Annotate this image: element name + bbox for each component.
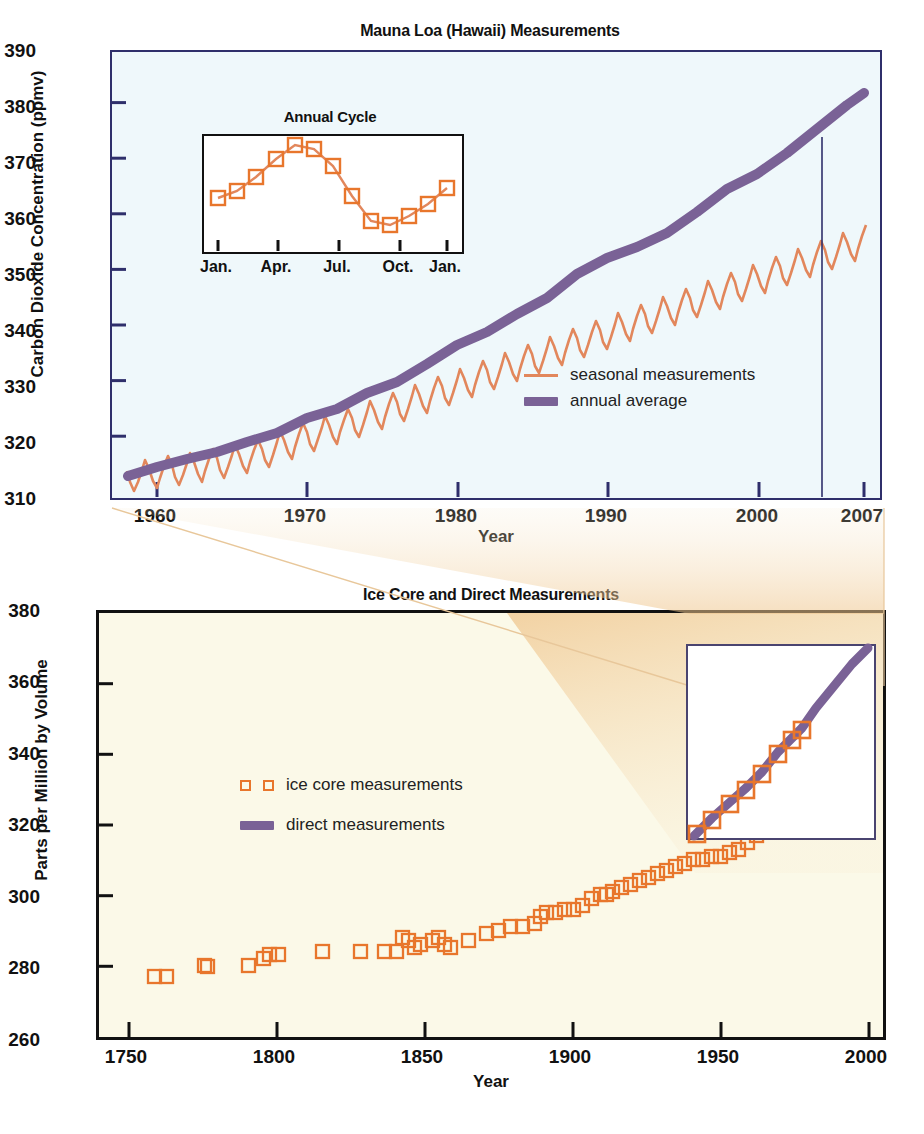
y-tick-bot-280: 280 xyxy=(0,957,40,979)
y-tick-bot-340: 340 xyxy=(0,743,40,765)
legend-item-direct-measurements: direct measurements xyxy=(240,812,580,838)
open-square-icon xyxy=(263,780,274,791)
legend-label-ice-core: ice core measurements xyxy=(286,775,463,795)
panel-mauna-loa: Mauna Loa (Hawaii) Measurements Carbon D… xyxy=(0,0,924,560)
annual-cycle-markers xyxy=(211,138,454,232)
y-tick-bot-300: 300 xyxy=(0,886,40,908)
x-axis-label-bottom: Year xyxy=(96,1072,886,1092)
open-square-icon xyxy=(240,780,251,791)
annual-xtick-jul: Jul. xyxy=(302,258,372,276)
legend-label-annual-average: annual average xyxy=(570,391,687,411)
x-tick-bot-1950: 1950 xyxy=(673,1046,763,1068)
x-tick-bot-1900: 1900 xyxy=(525,1046,615,1068)
annual-xtick-apr: Apr. xyxy=(241,258,311,276)
annual-cycle-plot-area xyxy=(202,134,464,254)
annual-cycle-inset: Annual Cycle xyxy=(196,108,464,288)
legend-item-ice-core-measurements: ice core measurements xyxy=(240,772,580,798)
y-tick-top-330: 330 xyxy=(0,376,36,398)
legend-ice-core: ice core measurements direct measurement… xyxy=(240,772,580,838)
annual-xtick-jan-end: Jan. xyxy=(410,258,480,276)
co2-figure: Mauna Loa (Hawaii) Measurements Carbon D… xyxy=(0,0,924,1134)
legend-swatch-thick-line-icon xyxy=(524,397,558,406)
y-tick-top-360: 360 xyxy=(0,208,36,230)
magnifier-inset-box xyxy=(686,644,876,840)
x-tick-bot-2000: 2000 xyxy=(821,1046,911,1068)
legend-label-direct-measurements: direct measurements xyxy=(286,815,445,835)
legend-swatch-squares-icon xyxy=(240,780,274,791)
y-tick-top-350: 350 xyxy=(0,264,36,286)
x-tick-bot-1750: 1750 xyxy=(81,1046,171,1068)
legend-swatch-line-icon xyxy=(524,374,558,377)
y-tick-top-340: 340 xyxy=(0,320,36,342)
x-tick-bot-1800: 1800 xyxy=(229,1046,319,1068)
legend-mauna-loa: seasonal measurements annual average xyxy=(524,362,854,414)
y-tick-top-390: 390 xyxy=(0,40,36,62)
legend-item-seasonal-measurements: seasonal measurements xyxy=(524,362,854,388)
legend-item-annual-average: annual average xyxy=(524,388,854,414)
y-tick-top-370: 370 xyxy=(0,152,36,174)
legend-label-seasonal: seasonal measurements xyxy=(570,365,755,385)
annual-cycle-title: Annual Cycle xyxy=(196,108,464,125)
x-tick-bot-1850: 1850 xyxy=(377,1046,467,1068)
y-tick-top-320: 320 xyxy=(0,432,36,454)
inset-direct-measurements-line xyxy=(694,648,868,836)
y-tick-top-380: 380 xyxy=(0,96,36,118)
y-tick-bot-320: 320 xyxy=(0,814,40,836)
y-tick-bot-260: 260 xyxy=(0,1029,40,1051)
legend-swatch-thick-line-icon xyxy=(240,821,274,830)
panel-title-mauna-loa: Mauna Loa (Hawaii) Measurements xyxy=(110,22,870,40)
